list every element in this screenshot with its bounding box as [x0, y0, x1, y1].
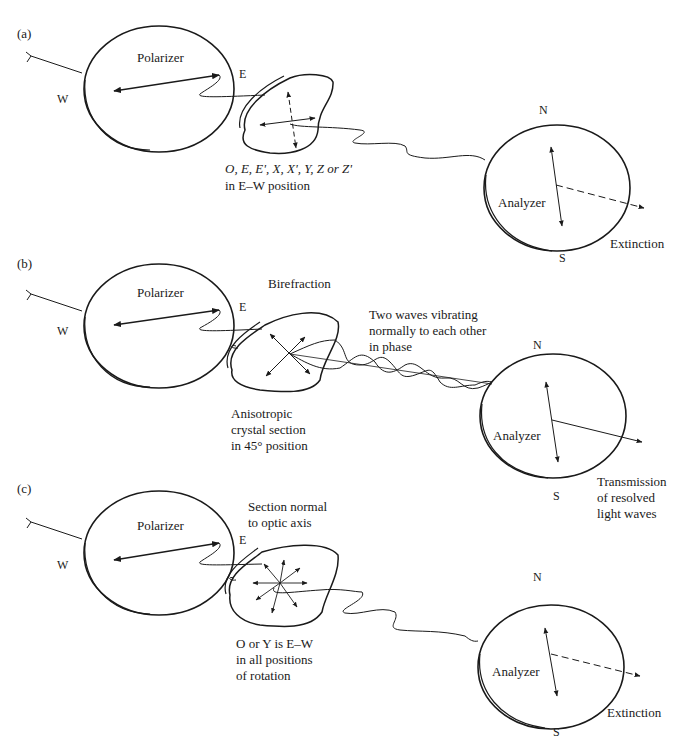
- panel-a-drawing: [26, 26, 644, 251]
- result-label: Transmission of resolved light waves: [597, 474, 667, 522]
- crystal-caption: O or Y is E–W in all positions of rotati…: [236, 636, 313, 684]
- crystal-caption: O, E, E', X, X', Y, Z or Z': [225, 161, 352, 177]
- crystal-section: [243, 75, 333, 154]
- panel-label-b: (b): [17, 256, 32, 272]
- east-label: E: [239, 299, 246, 315]
- east-label: E: [239, 66, 246, 82]
- result-label: Extinction: [610, 236, 664, 252]
- diagram-drawing: [0, 0, 683, 742]
- crystal-caption: Anisotropic crystal section in 45° posit…: [231, 406, 308, 454]
- analyzer-label: Analyzer: [492, 664, 540, 680]
- section-normal-caption: Section normal to optic axis: [248, 499, 327, 531]
- east-label: E: [239, 532, 246, 548]
- panel-label-c: (c): [17, 481, 31, 497]
- polarizer-vibration-arrow: [114, 75, 219, 91]
- panel-b-drawing: [26, 264, 642, 478]
- panel-label-a: (a): [17, 26, 31, 42]
- north-label: N: [533, 337, 542, 353]
- result-label: Extinction: [607, 705, 661, 721]
- south-label: S: [553, 724, 560, 740]
- south-label: S: [553, 488, 560, 504]
- wave-caption: Two waves vibrating normally to each oth…: [369, 307, 486, 355]
- west-label: W: [57, 323, 68, 339]
- polarizer-disc: [84, 26, 234, 152]
- north-label: N: [539, 102, 548, 118]
- analyzer-label: Analyzer: [498, 195, 546, 211]
- north-label: N: [533, 569, 542, 585]
- polarizer-label: Polarizer: [137, 518, 184, 534]
- analyzer-label: Analyzer: [493, 428, 541, 444]
- south-label: S: [559, 250, 566, 266]
- panel-c-drawing: [26, 491, 640, 729]
- crystal-caption: in E–W position: [225, 178, 310, 194]
- polarizer-label: Polarizer: [137, 285, 184, 301]
- west-label: W: [57, 91, 68, 107]
- west-label: W: [57, 557, 68, 573]
- birefraction-label: Birefraction: [268, 276, 331, 292]
- light-source-icon: [26, 52, 82, 73]
- polarizer-label: Polarizer: [137, 50, 184, 66]
- polarized-light-diagram: (a) Polarizer W E O, E, E', X, X', Y, Z …: [0, 0, 683, 742]
